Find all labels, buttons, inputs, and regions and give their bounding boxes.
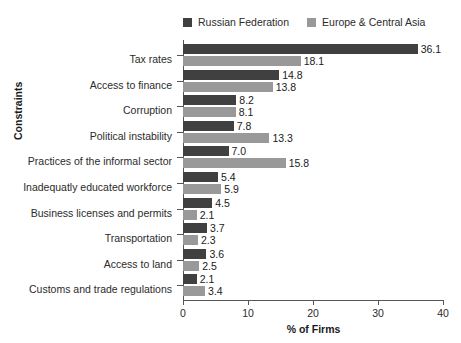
bar [183,184,221,194]
x-axis-tick-label: 20 [298,307,328,319]
bar-value-label: 2.3 [201,234,216,246]
bar [183,198,212,208]
category-label: Tax rates [2,53,172,65]
bar [183,82,273,92]
x-axis-tick-label: 0 [168,307,198,319]
legend-label: Russian Federation [198,17,289,28]
bar-value-label: 14.8 [282,69,302,81]
category-label: Access to land [2,258,172,270]
plot-area: 36.118.114.813.88.28.17.813.37.015.85.45… [183,44,443,300]
legend-swatch-icon [307,18,316,27]
bar-row: 14.8 [183,70,443,80]
bar [183,249,206,259]
bar-value-label: 18.1 [304,55,324,67]
bar-row: 8.1 [183,107,443,117]
bar [183,235,198,245]
legend-label: Europe & Central Asia [322,17,425,28]
legend-entry: Russian Federation [183,17,289,28]
bar [183,44,418,54]
category-label: Corruption [2,104,172,116]
bar [183,70,279,80]
x-axis-tick-label: 40 [428,307,458,319]
bar-value-label: 8.1 [239,106,254,118]
bar-value-label: 3.4 [208,285,223,297]
bar-row: 18.1 [183,56,443,66]
bar [183,107,236,117]
bar [183,158,286,168]
x-axis-tick [183,300,184,305]
bar [183,133,269,143]
bar-value-label: 4.5 [215,197,230,209]
y-axis-tick [177,106,183,107]
bar-row: 5.4 [183,172,443,182]
bar-value-label: 36.1 [421,43,441,55]
y-axis-tick [177,234,183,235]
bar-value-label: 2.5 [202,260,217,272]
x-axis-title: % of Firms [183,323,444,335]
x-axis-tick [248,300,249,305]
bar-chart: Russian FederationEurope & Central Asia … [0,0,461,343]
bar-row: 2.1 [183,274,443,284]
bar-value-label: 3.6 [209,248,224,260]
bar-row: 13.8 [183,82,443,92]
x-axis-tick-label: 10 [233,307,263,319]
bar-value-label: 3.7 [210,222,225,234]
bar-value-label: 7.8 [237,120,252,132]
x-axis-tick [378,300,379,305]
bar-row: 4.5 [183,198,443,208]
bar-row: 3.7 [183,223,443,233]
bar-row: 3.6 [183,249,443,259]
x-axis-tick [313,300,314,305]
category-label: Political instability [2,130,172,142]
bar [183,223,207,233]
bar [183,56,301,66]
category-label: Transportation [2,232,172,244]
bar-row: 7.8 [183,121,443,131]
bar-row: 2.1 [183,210,443,220]
y-axis-tick [177,260,183,261]
category-label: Customs and trade regulations [2,283,172,295]
bar-row: 7.0 [183,146,443,156]
bar-row: 13.3 [183,133,443,143]
legend-entry: Europe & Central Asia [307,17,425,28]
bar [183,210,197,220]
bar-value-label: 2.1 [200,209,215,221]
bar-row: 8.2 [183,95,443,105]
bar [183,286,205,296]
bar-value-label: 2.1 [200,273,215,285]
chart-legend: Russian FederationEurope & Central Asia [183,14,461,30]
bar-row: 15.8 [183,158,443,168]
bar [183,261,199,271]
bar-value-label: 13.3 [272,132,292,144]
legend-swatch-icon [183,18,192,27]
bar [183,172,218,182]
bar-value-label: 15.8 [289,157,309,169]
bar-row: 2.3 [183,235,443,245]
bar [183,95,236,105]
bar-value-label: 13.8 [276,81,296,93]
bar-value-label: 8.2 [239,94,254,106]
bar [183,121,234,131]
y-axis-tick [177,157,183,158]
bar-value-label: 5.9 [224,183,239,195]
y-axis-tick [177,132,183,133]
category-label: Business licenses and permits [2,207,172,219]
y-axis-tick [177,81,183,82]
category-label: Practices of the informal sector [2,155,172,167]
y-axis-tick [177,209,183,210]
category-label: Inadequatly educated workforce [2,181,172,193]
bar-row: 36.1 [183,44,443,54]
bar [183,274,197,284]
category-label: Access to finance [2,79,172,91]
y-axis-tick [177,183,183,184]
bar-row: 5.9 [183,184,443,194]
x-axis-tick-label: 30 [363,307,393,319]
bar-value-label: 7.0 [232,145,247,157]
bar-row: 3.4 [183,286,443,296]
y-axis-tick [177,55,183,56]
bar [183,146,229,156]
x-axis-tick [443,300,444,305]
y-axis-tick [177,285,183,286]
bar-row: 2.5 [183,261,443,271]
bar-value-label: 5.4 [221,171,236,183]
